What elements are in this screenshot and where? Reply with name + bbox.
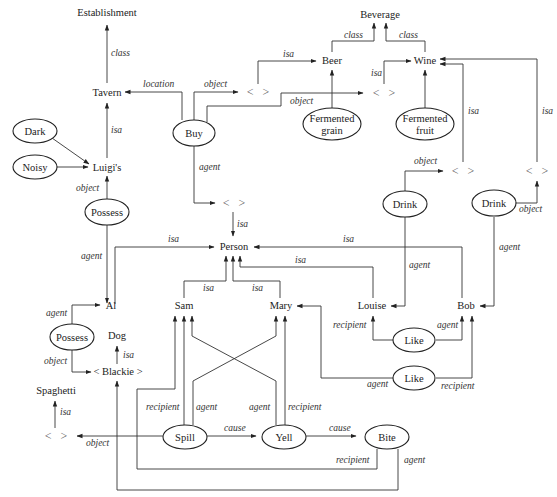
node-fermented-grain: Fermented grain <box>303 108 361 140</box>
label-recipient-spill: recipient <box>146 402 180 412</box>
semantic-network-diagram: class isa object agent isa agent object … <box>0 0 557 497</box>
node-dark: Dark <box>13 119 57 143</box>
svg-text:Bite: Bite <box>378 432 396 443</box>
edge-like1-recipient-louise <box>373 316 393 340</box>
node-sam: Sam <box>175 300 194 311</box>
label-class-tavern: class <box>111 48 130 58</box>
node-like-1: Like <box>393 328 435 352</box>
label-isa-drink1-anon: isa <box>468 106 479 116</box>
node-al: Al <box>106 300 117 311</box>
node-bite: Bite <box>365 425 409 449</box>
node-spaghetti: Spaghetti <box>36 385 76 396</box>
label-agent-yell: agent <box>249 402 270 412</box>
node-anon-drink1: < > <box>452 164 475 178</box>
svg-text:Noisy: Noisy <box>22 162 48 173</box>
label-object-drink1: object <box>414 156 438 166</box>
node-anon-spaghetti: < > <box>45 429 68 443</box>
label-agent-spill: agent <box>196 402 217 412</box>
node-spill: Spill <box>163 425 207 449</box>
label-agent-possess2: agent <box>46 308 67 318</box>
label-class-beer: class <box>344 30 363 40</box>
label-agent-like2: agent <box>367 379 388 389</box>
svg-text:Yell: Yell <box>275 432 292 443</box>
svg-text:Dark: Dark <box>25 126 47 137</box>
svg-text:Buy: Buy <box>185 128 203 139</box>
label-cause-yell: cause <box>329 423 351 433</box>
edge-buy-agent-anon3 <box>194 146 215 203</box>
label-agent-bite: agent <box>404 455 425 465</box>
svg-text:Drink: Drink <box>482 198 507 209</box>
node-louise: Louise <box>358 300 387 311</box>
edge-bite-agent-blackie <box>117 381 398 490</box>
node-wine: Wine <box>414 55 437 66</box>
node-noisy: Noisy <box>13 155 57 179</box>
svg-text:Spill: Spill <box>175 432 195 443</box>
svg-text:Possess: Possess <box>91 207 123 218</box>
svg-text:grain: grain <box>321 125 343 136</box>
label-isa-louise: isa <box>295 255 306 265</box>
edge-drink1-agent-louise <box>391 217 405 306</box>
label-object-possess: object <box>76 183 100 193</box>
svg-text:Like: Like <box>404 373 424 384</box>
label-recipient-yell: recipient <box>288 402 322 412</box>
node-bob: Bob <box>457 300 475 311</box>
node-possess-1: Possess <box>85 199 129 225</box>
label-isa-mary: isa <box>252 283 263 293</box>
edge-anon-drink2-isa-wine <box>440 59 537 162</box>
label-isa-anon3: isa <box>237 219 248 229</box>
label-agent-drink1: agent <box>409 260 430 270</box>
label-object-drink2: object <box>519 204 543 214</box>
node-beverage: Beverage <box>360 9 400 20</box>
edge-like2-agent-mary <box>297 306 393 378</box>
oval-nodes: Dark Noisy Possess Possess Buy Fermented… <box>13 108 516 449</box>
svg-text:Drink: Drink <box>393 199 418 210</box>
node-mary: Mary <box>270 300 293 311</box>
label-isa-blackie: isa <box>123 350 134 360</box>
label-cause-spill: cause <box>224 423 246 433</box>
label-location: location <box>143 79 174 89</box>
node-fermented-fruit: Fermented fruit <box>396 108 454 140</box>
label-object-buy2: object <box>290 96 314 106</box>
label-recipient-like1: recipient <box>333 320 367 330</box>
label-object-buy1: object <box>204 79 228 89</box>
label-agent-possess: agent <box>81 251 102 261</box>
node-drink-2: Drink <box>472 190 516 216</box>
label-isa-sam: isa <box>203 283 214 293</box>
node-tavern: Tavern <box>93 87 123 98</box>
svg-text:Fermented: Fermented <box>403 113 449 124</box>
node-beer: Beer <box>322 55 342 66</box>
label-recipient-like2: recipient <box>441 381 475 391</box>
node-blackie: < Blackie > <box>93 366 142 377</box>
node-yell: Yell <box>262 425 306 449</box>
label-isa-luigis: isa <box>111 125 122 135</box>
label-object-possess2: object <box>44 356 68 366</box>
node-buy: Buy <box>173 120 215 146</box>
node-anon-buy-object2: < > <box>373 86 396 100</box>
edge-buy-location-tavern <box>125 92 182 120</box>
label-isa-bob: isa <box>343 234 354 244</box>
label-isa-drink2-anon: isa <box>542 106 553 116</box>
node-possess-2: Possess <box>50 324 94 350</box>
node-like-2: Like <box>393 366 435 390</box>
label-agent-buy: agent <box>199 162 220 172</box>
label-object-spill: object <box>86 438 110 448</box>
edge-bob-isa-person <box>254 247 462 298</box>
svg-text:Like: Like <box>404 335 424 346</box>
label-isa-anon1: isa <box>283 49 294 59</box>
node-anon-drink2: < > <box>526 164 549 178</box>
svg-text:Possess: Possess <box>56 332 88 343</box>
edge-dark-luigis <box>52 138 89 164</box>
edge-drink2-agent-bob <box>480 217 494 306</box>
node-drink-1: Drink <box>383 191 427 217</box>
edge-drink2-object-anon <box>515 181 537 203</box>
node-establishment: Establishment <box>77 7 137 18</box>
label-recipient-bite: recipient <box>336 455 370 465</box>
node-person: Person <box>220 241 249 252</box>
label-isa-spaghetti: isa <box>60 407 71 417</box>
label-agent-drink2: agent <box>499 242 520 252</box>
label-isa-anon2: isa <box>371 68 382 78</box>
node-luigis: Luigi's <box>93 162 122 173</box>
label-isa-al: isa <box>168 234 179 244</box>
edge-anon1-isa-beer <box>258 61 316 84</box>
label-class-wine: class <box>399 30 418 40</box>
